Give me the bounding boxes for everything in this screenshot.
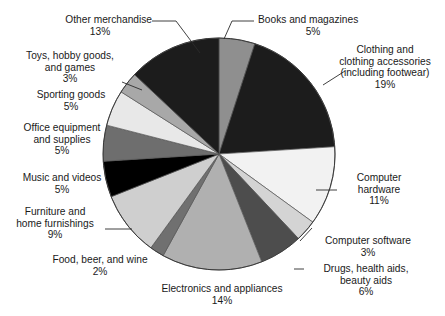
label-clothing-line2: clothing accessories xyxy=(339,56,431,67)
label-computer-software: Computer software 3% xyxy=(306,235,430,258)
label-sporting-goods-pct: 5% xyxy=(20,101,122,113)
label-sporting-goods-line1: Sporting goods xyxy=(37,89,106,100)
label-music-videos-line1: Music and videos xyxy=(23,172,102,183)
label-toys-hobby-line1: Toys, hobby goods, xyxy=(26,50,114,61)
label-music-videos: Music and videos 5% xyxy=(6,172,118,195)
label-furniture-line2: home furnishings xyxy=(16,218,94,229)
label-music-videos-pct: 5% xyxy=(6,184,118,196)
label-office-equipment-line2: and supplies xyxy=(33,134,90,145)
label-clothing-pct: 19% xyxy=(325,79,445,91)
label-drugs-health: Drugs, health aids, beauty aids 6% xyxy=(304,263,428,298)
label-electronics-pct: 14% xyxy=(140,295,304,307)
label-drugs-health-line1: Drugs, health aids, xyxy=(324,263,409,274)
label-electronics-line1: Electronics and appliances xyxy=(161,283,282,294)
label-electronics: Electronics and appliances 14% xyxy=(140,283,304,306)
label-computer-hardware: Computer hardware 11% xyxy=(341,172,417,207)
label-computer-software-line1: Computer software xyxy=(325,235,411,246)
label-computer-hardware-line2: hardware xyxy=(358,184,400,195)
label-books-magazines: Books and magazines 5% xyxy=(258,14,378,37)
label-books-magazines-line1: Books and magazines xyxy=(258,14,358,25)
label-furniture-pct: 9% xyxy=(6,229,104,241)
pie-chart-figure: Other merchandise 13% Toys, hobby goods,… xyxy=(0,0,445,316)
label-office-equipment: Office equipment and supplies 5% xyxy=(6,122,118,157)
label-drugs-health-line2: beauty aids xyxy=(340,275,392,286)
leader-line-books-magazines xyxy=(224,21,254,39)
label-other-merchandise: Other merchandise 13% xyxy=(48,14,152,37)
label-sporting-goods: Sporting goods 5% xyxy=(20,89,122,112)
label-food-beer-wine-pct: 2% xyxy=(30,266,170,278)
label-drugs-health-pct: 6% xyxy=(304,286,428,298)
label-other-merchandise-line1: Other merchandise xyxy=(65,14,152,25)
label-clothing-line1: Clothing and xyxy=(356,44,413,55)
label-other-merchandise-pct: 13% xyxy=(48,26,152,38)
label-toys-hobby-line2: and games xyxy=(45,62,95,73)
label-toys-hobby: Toys, hobby goods, and games 3% xyxy=(18,50,122,85)
label-computer-hardware-pct: 11% xyxy=(341,195,417,207)
label-computer-software-pct: 3% xyxy=(306,247,430,259)
label-food-beer-wine-line1: Food, beer, and wine xyxy=(52,254,147,265)
label-books-magazines-pct: 5% xyxy=(258,26,368,38)
label-clothing: Clothing and clothing accessories (inclu… xyxy=(325,44,445,90)
label-furniture: Furniture and home furnishings 9% xyxy=(6,206,104,241)
label-office-equipment-pct: 5% xyxy=(6,145,118,157)
label-food-beer-wine: Food, beer, and wine 2% xyxy=(30,254,170,277)
label-toys-hobby-pct: 3% xyxy=(18,73,122,85)
label-computer-hardware-line1: Computer xyxy=(357,172,402,183)
label-clothing-line3: (including footwear) xyxy=(341,67,430,78)
label-office-equipment-line1: Office equipment xyxy=(24,122,101,133)
pie-slice-group xyxy=(103,38,335,270)
label-furniture-line1: Furniture and xyxy=(25,206,86,217)
